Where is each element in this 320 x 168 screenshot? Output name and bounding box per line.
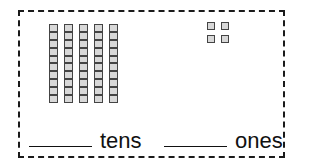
unit-cell [64,71,73,79]
unit-cell [64,56,73,64]
unit-cell [94,71,103,79]
unit-cell [109,24,118,32]
unit-cell [49,40,58,48]
unit-cell [64,48,73,56]
unit-cell [49,32,58,40]
unit-cell [64,79,73,87]
tens-rod [64,24,73,103]
unit-cell [79,40,88,48]
unit-cell [94,79,103,87]
unit-cell [94,63,103,71]
ones-cube [221,35,229,43]
unit-cell [49,71,58,79]
unit-cell [94,87,103,95]
unit-cell [79,79,88,87]
unit-cell [49,63,58,71]
unit-cell [49,48,58,56]
unit-cell [109,48,118,56]
unit-cell [109,87,118,95]
unit-cell [64,24,73,32]
unit-cell [79,63,88,71]
unit-cell [64,32,73,40]
ones-cube [207,35,215,43]
unit-cell [109,56,118,64]
unit-cell [94,56,103,64]
unit-cell [109,79,118,87]
unit-cell [49,56,58,64]
unit-cell [79,56,88,64]
unit-cell [109,95,118,103]
tens-rod [94,24,103,103]
unit-cell [64,87,73,95]
unit-cell [79,71,88,79]
unit-cell [49,95,58,103]
ones-label: ones [235,130,283,152]
unit-cell [64,40,73,48]
unit-cell [109,32,118,40]
unit-cell [109,71,118,79]
unit-cell [94,24,103,32]
unit-cell [49,79,58,87]
ones-cube [207,22,215,30]
unit-cell [94,40,103,48]
ones-answer-blank[interactable] [164,146,227,147]
unit-cell [94,32,103,40]
tens-rod [109,24,118,103]
unit-cell [109,40,118,48]
unit-cell [79,48,88,56]
tens-label: tens [100,130,142,152]
unit-cell [94,95,103,103]
unit-cell [79,95,88,103]
unit-cell [79,87,88,95]
unit-cell [64,95,73,103]
tens-rod [49,24,58,103]
unit-cell [79,32,88,40]
unit-cell [49,87,58,95]
unit-cell [49,24,58,32]
ones-cube [221,22,229,30]
unit-cell [94,48,103,56]
tens-rod [79,24,88,103]
unit-cell [64,63,73,71]
unit-cell [109,63,118,71]
unit-cell [79,24,88,32]
tens-answer-blank[interactable] [29,146,92,147]
